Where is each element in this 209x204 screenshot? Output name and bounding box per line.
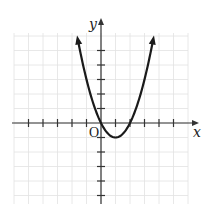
- right-arrowhead-icon: [149, 36, 156, 45]
- left-arrowhead-icon: [75, 36, 82, 45]
- y-axis-arrow-icon: [98, 18, 104, 25]
- y-axis-label: y: [88, 16, 98, 32]
- parabola-chart: yxO: [0, 0, 209, 204]
- x-axis-label: x: [193, 124, 201, 140]
- origin-label: O: [89, 125, 99, 140]
